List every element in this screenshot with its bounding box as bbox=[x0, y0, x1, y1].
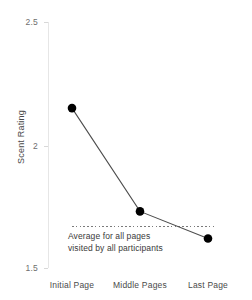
scent-rating-line bbox=[72, 108, 208, 238]
x-tick-label-last-page: Last Page bbox=[168, 280, 248, 290]
data-point-initial-page bbox=[68, 104, 77, 113]
average-annotation-line-2: visited by all participants bbox=[68, 243, 163, 253]
scent-rating-chart: 2.5 2 1.5 Scent Rating Average for all p… bbox=[0, 0, 252, 300]
data-point-middle-pages bbox=[136, 207, 145, 216]
data-point-last-page bbox=[204, 234, 213, 243]
average-annotation-line-1: Average for all pages bbox=[68, 231, 150, 241]
plot-area bbox=[0, 0, 252, 300]
